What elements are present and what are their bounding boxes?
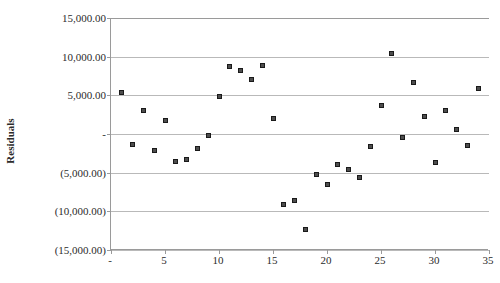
data-point [238,68,243,73]
data-point [260,63,265,68]
y-tick-label: (10,000.00) [55,205,106,217]
data-point [346,167,351,172]
x-tick-mark [165,250,166,254]
x-tick-mark [111,250,112,254]
y-tick-mark [107,95,111,96]
x-tick-label: 30 [429,254,440,266]
data-point [195,146,200,151]
y-tick-mark [107,173,111,174]
data-point [292,198,297,203]
scatter-chart: Residuals 15,000.0010,000.005,000.00-(5,… [0,0,500,283]
data-point [184,157,189,162]
gridline [111,211,489,212]
data-point [152,148,157,153]
data-point [433,160,438,165]
gridline [111,95,489,96]
data-point [325,182,330,187]
data-point [476,86,481,91]
data-point [335,162,340,167]
data-point [400,135,405,140]
y-tick-mark [107,57,111,58]
data-point [454,127,459,132]
x-tick-mark [273,250,274,254]
plot-area [110,18,488,250]
data-point [314,172,319,177]
data-point [422,114,427,119]
data-point [389,51,394,56]
plot-top-border [111,18,489,19]
y-tick-label: - [102,128,106,140]
data-point [443,108,448,113]
data-point [173,159,178,164]
x-tick-mark [381,250,382,254]
x-tick-mark [489,250,490,254]
y-tick-label: 15,000.00 [62,12,106,24]
data-point [119,90,124,95]
y-axis-title: Residuals [4,118,16,163]
x-tick-label: 35 [483,254,494,266]
data-point [303,227,308,232]
x-tick-label: 20 [321,254,332,266]
y-tick-label: (15,000.00) [55,244,106,256]
gridline [111,134,489,135]
x-tick-label: 25 [375,254,386,266]
x-tick-mark [435,250,436,254]
x-tick-label: 15 [267,254,278,266]
gridline [111,173,489,174]
data-point [281,202,286,207]
y-tick-mark [107,134,111,135]
data-point [379,103,384,108]
data-point [206,133,211,138]
y-tick-label: 10,000.00 [62,51,106,63]
data-point [465,143,470,148]
data-point [249,77,254,82]
x-tick-label: 5 [161,254,167,266]
data-point [411,80,416,85]
data-point [368,144,373,149]
data-point [271,116,276,121]
cut-off-title-remnant [200,0,370,4]
y-tick-label: 5,000.00 [68,89,107,101]
gridline [111,57,489,58]
data-point [163,118,168,123]
x-tick-mark [219,250,220,254]
data-point [227,64,232,69]
x-tick-mark [327,250,328,254]
gridline [111,250,489,251]
x-tick-label: 10 [213,254,224,266]
data-point [130,142,135,147]
y-tick-mark [107,211,111,212]
y-tick-label: (5,000.00) [60,167,106,179]
data-point [141,108,146,113]
data-point [217,94,222,99]
data-point [357,175,362,180]
x-tick-label: - [108,254,112,266]
y-tick-mark [107,18,111,19]
